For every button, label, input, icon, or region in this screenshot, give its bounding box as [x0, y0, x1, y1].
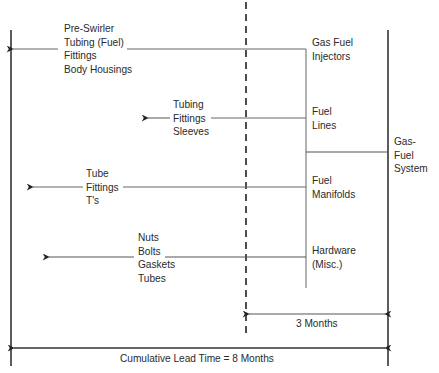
part-text: Fittings — [86, 181, 119, 195]
part-text: Tubing (Fuel) — [64, 36, 132, 50]
part-text: Fittings — [173, 112, 209, 126]
component-hardware-label: Hardware (Misc.) — [312, 244, 356, 271]
part-text: Gaskets — [138, 258, 175, 272]
component-text: Gas Fuel — [312, 36, 353, 50]
line-parts-label: Tubing Fittings Sleeves — [173, 98, 209, 139]
part-text: Fittings — [64, 49, 132, 63]
part-text: Body Housings — [64, 63, 132, 77]
part-text: Bolts — [138, 245, 175, 259]
system-text: Gas- — [394, 135, 428, 149]
system-text: System — [394, 162, 428, 176]
component-text: Lines — [312, 119, 336, 133]
part-text: Sleeves — [173, 125, 209, 139]
component-injectors-label: Gas Fuel Injectors — [312, 36, 353, 63]
three-months-label: 3 Months — [296, 317, 338, 331]
part-text: Nuts — [138, 231, 175, 245]
component-text: Manifolds — [312, 188, 355, 202]
component-text: Injectors — [312, 50, 353, 64]
part-text: Tube — [86, 167, 119, 181]
component-text: Fuel — [312, 105, 336, 119]
component-manifolds-label: Fuel Manifolds — [312, 174, 355, 201]
component-text: Hardware — [312, 244, 356, 258]
part-text: Tubes — [138, 272, 175, 286]
component-text: Fuel — [312, 174, 355, 188]
manifold-parts-label: Tube Fittings T's — [86, 167, 119, 208]
part-text: Pre-Swirler — [64, 22, 132, 36]
system-label: Gas- Fuel System — [394, 135, 428, 176]
component-text: (Misc.) — [312, 258, 356, 272]
hardware-parts-label: Nuts Bolts Gaskets Tubes — [138, 231, 175, 285]
cumulative-lead-time-label: Cumulative Lead Time = 8 Months — [120, 352, 274, 366]
part-text: T's — [86, 194, 119, 208]
injector-parts-label: Pre-Swirler Tubing (Fuel) Fittings Body … — [64, 22, 132, 76]
system-text: Fuel — [394, 149, 428, 163]
part-text: Tubing — [173, 98, 209, 112]
component-lines-label: Fuel Lines — [312, 105, 336, 132]
